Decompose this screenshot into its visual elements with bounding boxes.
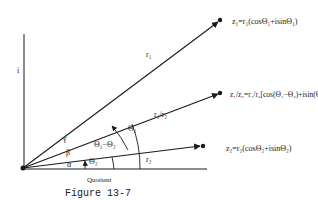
beta-label: β [66,148,70,157]
diagram-subtitle: Quotient [87,176,112,184]
z1-point [218,18,222,22]
alpha-label: α [67,160,72,169]
r2-label: r₂ [146,155,152,164]
z2-label: z₂=r₂(cosΘ₂+isinΘ₂) [226,144,292,153]
quotient-diagram: i z₁=r₁(cosΘ₁+isinΘ₁) r₁ z₁/z₂=r₁/r₂[cos… [0,0,318,200]
gamma-label: γ [62,134,67,143]
r1-label: r₁ [146,50,152,59]
quotient-label: z₁/z₂=r₁/r₂[cos(Θ₁−Θ₂)+isin(Θ₁−Θ₂)] [230,90,318,99]
quotient-point [218,91,222,95]
vector-z1 [23,22,218,168]
r1-over-r2-label: r₁/r₂ [154,110,167,119]
figure-caption: Figure 13-7 [65,188,131,199]
vector-z2 [23,146,200,168]
z1-label: z₁=r₁(cosΘ₁+isinΘ₁) [232,17,298,26]
theta-diff-arc [112,157,114,169]
theta-diff-label: Θ₁−Θ₂ [94,140,116,149]
imaginary-axis-label: i [17,66,20,75]
z2-point [201,144,205,148]
theta1-label: Θ₁ [128,124,137,133]
vector-quotient [23,94,218,168]
theta2-label: Θ₂ [89,157,98,166]
